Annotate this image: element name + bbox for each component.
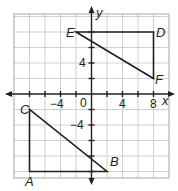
tick-label-origin: 0 bbox=[80, 96, 87, 110]
vertex-label-c: C bbox=[20, 102, 30, 117]
coordinate-plane: y x −4 0 4 8 4 −4 E D F C A B bbox=[0, 0, 178, 191]
vertex-label-a: A bbox=[24, 174, 34, 189]
tick-label-y-4: 4 bbox=[79, 56, 86, 70]
vertex-label-b: B bbox=[110, 154, 119, 169]
vertex-label-e: E bbox=[66, 25, 75, 40]
tick-label-x-8: 8 bbox=[150, 97, 157, 111]
tick-label-y-neg4: −4 bbox=[70, 118, 84, 132]
triangle-def bbox=[76, 32, 154, 79]
axis-label-y: y bbox=[95, 5, 104, 20]
tick-label-x-4: 4 bbox=[119, 97, 126, 111]
axis-label-x: x bbox=[161, 93, 169, 108]
tick-label-x-neg4: −4 bbox=[50, 97, 64, 111]
vertex-label-f: F bbox=[155, 72, 164, 87]
vertex-label-d: D bbox=[156, 25, 165, 40]
